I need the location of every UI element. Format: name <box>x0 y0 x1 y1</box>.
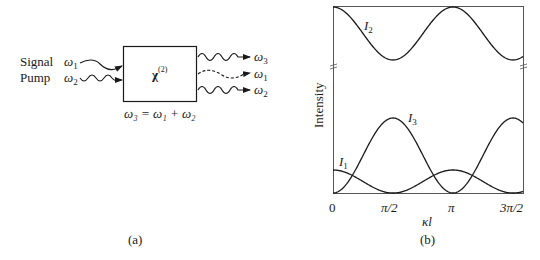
omega1-output-arrow <box>198 70 250 78</box>
figure: Signal ω1 Pump ω2 χ(2) ω3 ω1 ω2 ω₃ = ω₁ … <box>0 0 540 260</box>
signal-freq: ω1 <box>64 54 78 71</box>
x-tick-pi-half: π/2 <box>381 200 398 215</box>
pump-freq: ω2 <box>64 70 78 87</box>
frequency-equation: ω₃ = ω₁ + ω₂ <box>124 106 196 121</box>
signal-input-arrow <box>80 60 122 70</box>
signal-label: Signal <box>20 54 54 69</box>
x-axis-label: κl <box>422 214 432 229</box>
panel-a: Signal ω1 Pump ω2 χ(2) ω3 ω1 ω2 ω₃ = ω₁ … <box>20 47 268 248</box>
x-tick-pi: π <box>448 200 455 215</box>
panel-a-caption: (a) <box>128 232 142 247</box>
omega1-out-label: ω1 <box>254 66 268 83</box>
x-tick-0: 0 <box>329 200 336 215</box>
panel-b-caption: (b) <box>420 232 435 247</box>
label-I1: I1 <box>338 154 348 171</box>
curve-I1 <box>333 170 523 193</box>
curve-I3 <box>333 118 523 193</box>
x-tick-3pi-half: 3π/2 <box>499 200 524 215</box>
pump-input-arrow <box>80 75 122 81</box>
curve-I2 <box>333 7 523 60</box>
panel-b: I2 I3 I1 Intensity 0 π/2 π 3π/2 κl (b) <box>311 7 527 248</box>
label-I3: I3 <box>407 110 417 127</box>
chi2-label: χ(2) <box>151 65 168 82</box>
pump-label: Pump <box>20 70 50 85</box>
chi2-crystal-box <box>124 47 197 102</box>
omega3-label: ω3 <box>254 49 268 66</box>
omega2-out-label: ω2 <box>254 82 268 99</box>
label-I2: I2 <box>363 18 373 35</box>
omega3-output-arrow <box>198 54 250 61</box>
y-axis-label: Intensity <box>311 82 326 128</box>
omega2-output-arrow <box>198 87 250 94</box>
